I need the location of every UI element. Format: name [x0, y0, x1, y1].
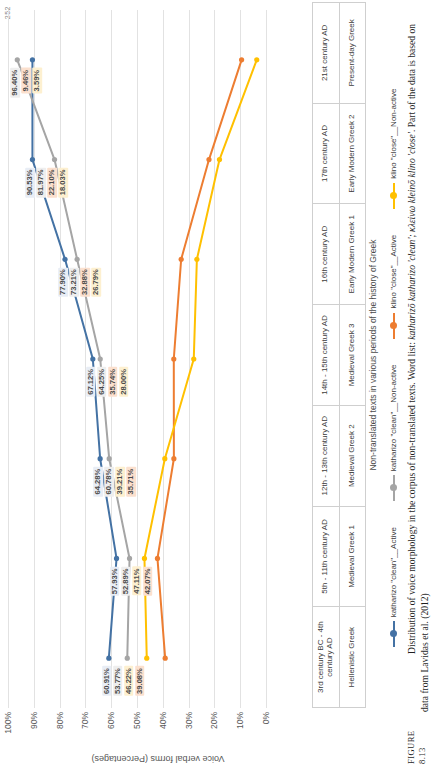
data-label: 64.25% [97, 367, 107, 397]
caption-italic: katharizō katharizo 'clean'; κλείνω klei… [406, 132, 417, 340]
data-label: 3.59% [32, 68, 42, 94]
legend-swatch-icon [389, 475, 398, 501]
data-label: 60.91% [102, 666, 112, 696]
data-point [30, 57, 35, 62]
period-date: 3rd century BC - 4th century AD [313, 607, 340, 707]
legend-label: klino "close"__Active [389, 235, 398, 309]
y-axis-ticks: 0%10%20%30%40%50%60%70%80%90%100% [8, 710, 266, 750]
figure-caption-text: Distribution of voice morphology in the … [406, 24, 430, 712]
data-point [98, 456, 103, 461]
legend-item[interactable]: katharizo "clean"__Active [389, 527, 398, 647]
rotated-figure-frame: 252 Voice verbal forms (Percentages) 0%1… [0, 0, 446, 772]
data-point [90, 356, 95, 361]
data-point [239, 57, 244, 62]
period-date: 17th century AD [313, 104, 340, 204]
data-point [217, 157, 222, 162]
data-point [125, 656, 130, 661]
data-label: 39.21% [115, 467, 125, 497]
data-label: 57.93% [110, 566, 120, 596]
period-date: 14th - 15th century AD [313, 305, 340, 405]
data-point [155, 556, 160, 561]
data-label: 47.11% [132, 566, 142, 595]
data-label: 67.12% [86, 367, 96, 397]
period-column: 16th century ADEarly Modern Greek 1 [313, 203, 365, 304]
data-label: 46.22% [124, 666, 134, 696]
period-table: 3rd century BC - 4th century ADHellenist… [312, 2, 366, 708]
data-label: 35.71% [126, 467, 136, 497]
legend-item[interactable]: klino "close"__Non-active [389, 89, 398, 209]
legend-swatch-icon [389, 183, 398, 209]
data-label: 32.88% [80, 267, 90, 297]
period-date: 12th - 13th century AD [313, 406, 340, 506]
y-axis-tick: 50% [132, 712, 142, 729]
data-point [254, 57, 259, 62]
series-line [157, 60, 241, 658]
legend-swatch-icon [389, 313, 398, 339]
period-name: Present-day Greek [340, 3, 366, 103]
data-label: 53.77% [113, 666, 123, 696]
data-point [144, 656, 149, 661]
period-name: Medieval Greek 1 [340, 507, 366, 607]
data-label: 28.00% [119, 367, 129, 397]
data-point [114, 556, 119, 561]
period-name: Early Modern Greek 2 [340, 104, 366, 204]
period-name: Hellenistic Greek [340, 607, 366, 707]
data-point [107, 456, 112, 461]
y-axis-tick: 30% [184, 712, 194, 729]
period-name: Early Modern Greek 1 [340, 204, 366, 304]
data-point [142, 556, 147, 561]
y-axis-tick: 80% [55, 712, 65, 729]
data-point [206, 157, 211, 162]
period-column: 12th - 13th century ADMedieval Greek 2 [313, 405, 365, 506]
period-column: 21st century ADPresent-day Greek [313, 3, 365, 103]
data-point [52, 157, 57, 162]
data-point [106, 656, 111, 661]
data-point [127, 556, 132, 561]
series-lines [8, 10, 266, 708]
y-axis-tick: 10% [235, 712, 245, 729]
legend-label: katharizo "clean"__Active [389, 527, 398, 617]
x-axis-label: Non-translated texts in various periods … [368, 2, 380, 708]
legend-swatch-icon [389, 621, 398, 647]
data-point [171, 456, 176, 461]
data-point [98, 356, 103, 361]
y-axis-tick: 40% [158, 712, 168, 729]
data-label: 90.53% [26, 168, 36, 198]
legend-label: katharizo "clean"__Non-active [389, 365, 398, 472]
period-date: 16th century AD [313, 204, 340, 304]
period-name: Medieval Greek 2 [340, 406, 366, 506]
data-label: 52.89% [121, 566, 131, 596]
data-point [75, 257, 80, 262]
data-point [171, 356, 176, 361]
data-label: 73.21% [69, 267, 79, 297]
y-axis-tick: 20% [209, 712, 219, 729]
period-column: 17th century ADEarly Modern Greek 2 [313, 103, 365, 204]
data-label: 18.03% [59, 168, 69, 198]
y-axis-tick: 90% [29, 712, 39, 729]
y-axis-tick: 0% [261, 712, 271, 724]
period-date: 5th - 11th century AD [313, 507, 340, 607]
caption-main: Distribution of voice morphology in the … [406, 340, 417, 654]
data-point [179, 257, 184, 262]
period-column: 5th - 11th century ADMedieval Greek 1 [313, 506, 365, 607]
data-label: 39.08% [135, 666, 145, 696]
data-point [191, 356, 196, 361]
period-column: 14th - 15th century ADMedieval Greek 3 [313, 304, 365, 405]
legend-item[interactable]: klino "close"__Active [389, 235, 398, 339]
data-point [62, 257, 67, 262]
data-point [30, 157, 35, 162]
data-label: 64.28% [93, 467, 103, 497]
data-label: 35.74% [108, 367, 118, 397]
legend-item[interactable]: katharizo "clean"__Non-active [389, 365, 398, 502]
data-label: 9.46% [21, 68, 31, 94]
period-column: 3rd century BC - 4th century ADHellenist… [313, 606, 365, 707]
y-axis-label: Voice verbal forms (Percentages) [8, 752, 308, 766]
y-axis-tick: 100% [3, 712, 13, 734]
plot-area: 60.91%53.77%46.22%39.08%57.93%52.89%47.1… [8, 10, 266, 708]
data-point [163, 656, 168, 661]
figure-key: FIGURE 8.13 [406, 712, 429, 764]
data-point [194, 257, 199, 262]
data-label: 22.10% [48, 168, 58, 198]
series-line [144, 60, 256, 658]
data-label: 60.78% [104, 467, 114, 497]
